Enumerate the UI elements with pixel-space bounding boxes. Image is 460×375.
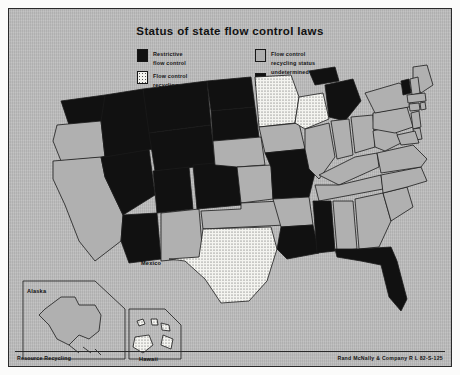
label-canada: Canada [215, 100, 237, 106]
state-colorado[interactable] [193, 161, 241, 209]
alaska-inset: Alaska [23, 281, 125, 359]
state-rhode-island[interactable] [420, 102, 426, 110]
state-south-dakota[interactable] [211, 107, 259, 141]
state-iowa[interactable] [259, 123, 305, 153]
map-figure: Status of state flow control laws Restri… [8, 8, 452, 367]
state-oregon[interactable] [53, 121, 105, 161]
state-ohio[interactable] [351, 115, 375, 153]
label-mexico: Mexico [141, 260, 162, 266]
state-new-jersey[interactable] [411, 111, 421, 129]
state-massachusetts[interactable] [407, 93, 426, 103]
label-alaska: Alaska [27, 288, 47, 294]
state-alabama[interactable] [333, 201, 357, 251]
state-nebraska[interactable] [213, 137, 265, 167]
state-new-mexico[interactable] [161, 209, 203, 261]
state-connecticut[interactable] [409, 103, 420, 111]
state-mississippi[interactable] [313, 201, 335, 253]
state-new-hampshire[interactable] [410, 77, 420, 95]
credit-right: Rand McNally & Company R L 82-S-125 [337, 355, 443, 361]
bottom-divider [15, 351, 445, 352]
state-alaska[interactable] [39, 297, 101, 345]
state-utah[interactable] [153, 167, 193, 213]
label-hawaii: Hawaii [139, 356, 158, 362]
state-arizona[interactable] [121, 213, 161, 263]
hawaii-inset: Hawaii [129, 309, 181, 362]
state-florida[interactable] [335, 247, 407, 311]
state-minnesota[interactable] [255, 75, 299, 127]
state-kansas[interactable] [237, 165, 273, 203]
state-wisconsin[interactable] [295, 93, 329, 129]
state-hawaii[interactable] [133, 319, 173, 353]
state-maryland[interactable] [397, 131, 419, 145]
state-montana[interactable] [143, 81, 211, 133]
us-choropleth-map: Canada Mexico Alaska Hawaii [9, 9, 452, 367]
credit-left: Resource Recycling [17, 355, 71, 361]
state-louisiana[interactable] [277, 225, 319, 259]
state-vermont[interactable] [401, 79, 411, 95]
